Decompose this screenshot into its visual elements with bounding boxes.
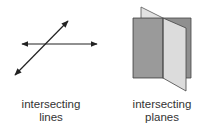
- caption-intersecting-lines: intersecting lines: [1, 98, 101, 124]
- dark-plane-left-shade: [134, 19, 162, 77]
- light-plane-front: [163, 18, 186, 91]
- caption-line-2: planes: [112, 111, 206, 124]
- caption-line-1: intersecting: [112, 98, 206, 111]
- caption-line-1: intersecting: [1, 98, 101, 111]
- caption-intersecting-planes: intersecting planes: [112, 98, 206, 124]
- caption-line-2: lines: [1, 111, 101, 124]
- diagonal-line: [15, 21, 68, 75]
- intersecting-planes-figure: [133, 7, 191, 91]
